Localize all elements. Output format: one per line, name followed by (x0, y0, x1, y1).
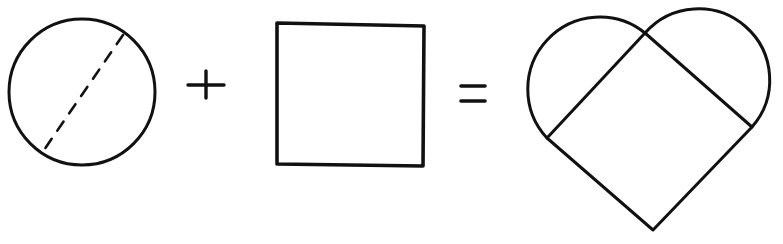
square-shape (277, 23, 424, 166)
circle-shape (9, 19, 155, 165)
plus-sign (188, 71, 224, 98)
diagram-canvas (0, 0, 783, 244)
equals-sign (461, 86, 485, 101)
dashed-diameter (44, 35, 123, 150)
heart-shape (528, 9, 770, 230)
